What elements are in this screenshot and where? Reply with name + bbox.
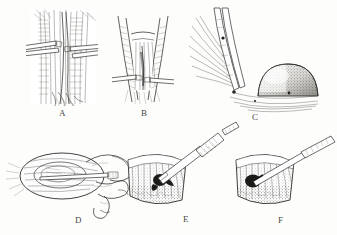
panel-f-illustration (222, 122, 335, 206)
panel-label-c: C (252, 112, 259, 122)
panel-c-illustration (189, 8, 322, 112)
panel-e-illustration (124, 133, 224, 206)
panel-label-f: F (278, 215, 284, 225)
panel-label-b: B (141, 108, 148, 118)
panel-label-d: D (75, 215, 82, 225)
panel-a-illustration (22, 9, 105, 108)
surgical-technique-plate (0, 0, 337, 235)
panel-b-illustration (110, 16, 176, 104)
instrument-fragment-f (222, 122, 239, 135)
panel-label-e: E (183, 214, 189, 224)
panel-label-a: A (59, 108, 66, 118)
panel-d-illustration (6, 153, 132, 218)
plate-artwork (0, 0, 337, 235)
